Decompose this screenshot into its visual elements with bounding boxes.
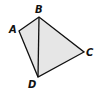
quadrilateral-diagram: A B C D: [0, 0, 102, 94]
vertex-label-d: D: [28, 79, 36, 90]
vertex-label-a: A: [8, 24, 17, 35]
vertex-label-b: B: [35, 4, 43, 15]
quadrilateral-abcd: [19, 17, 84, 77]
vertex-label-c: C: [86, 47, 94, 58]
